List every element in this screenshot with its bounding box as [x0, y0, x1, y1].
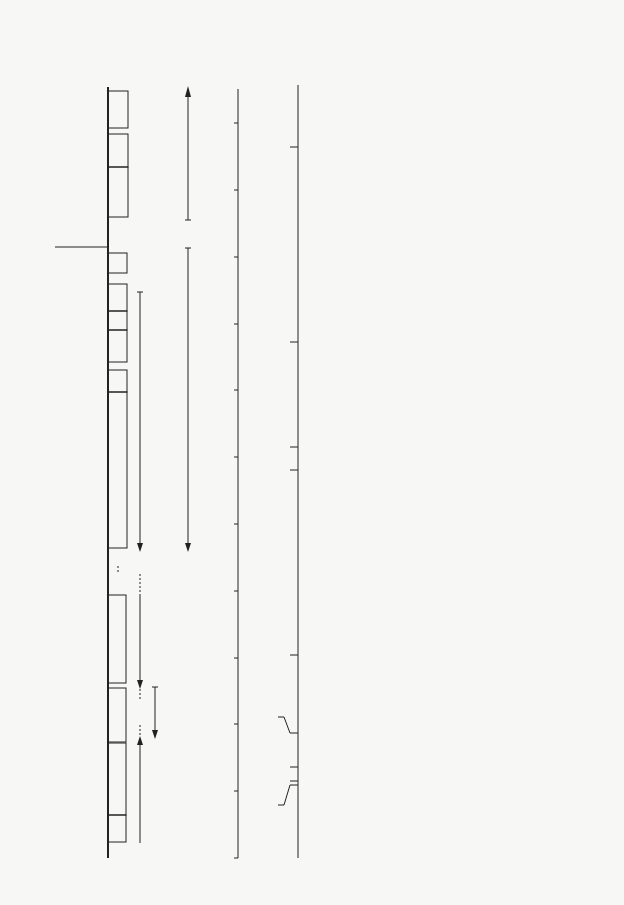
gene-orf106 [108, 370, 127, 392]
gene-gop [108, 815, 126, 842]
gene-orf88 [108, 253, 127, 273]
gene-alpha [108, 392, 127, 548]
genetic-restriction-map [0, 0, 624, 905]
kb-ticks [234, 123, 238, 858]
gene-epsilon [108, 311, 127, 330]
gene-orf151 [108, 330, 127, 362]
gene-boxes [108, 91, 128, 842]
gene-delta [108, 134, 128, 167]
gene-cII [108, 688, 126, 742]
gene-beta [108, 743, 126, 815]
gene-int [108, 595, 126, 683]
gene-sid [108, 167, 128, 217]
gene-psu [108, 91, 128, 128]
gene-cII-ash [108, 284, 127, 311]
